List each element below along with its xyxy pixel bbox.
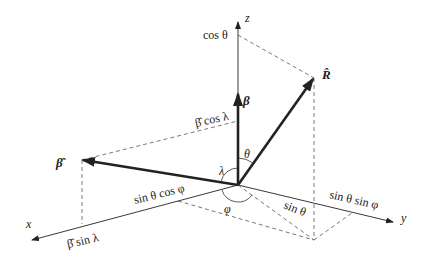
beta-hat-vector [83, 160, 238, 185]
beta-cos-lambda-label: β̂ cos λ [194, 109, 230, 130]
cos-theta-label: cos θ [203, 28, 228, 42]
projection-lines [82, 35, 352, 240]
beta-sin-lambda-label: β̂ sin λ [66, 230, 100, 251]
r-hat-label: R̂ [321, 67, 331, 82]
phi-angle-label: φ [224, 202, 231, 216]
y-axis-label: y [400, 211, 407, 225]
theta-angle-label: θ [244, 147, 250, 161]
sin-theta-cos-phi-label: sin θ cos φ [132, 181, 186, 207]
beta-label: β [242, 93, 250, 108]
x-axis-label: x [25, 217, 32, 231]
lambda-angle-label: λ [218, 164, 224, 178]
vector-diagram: z x y β R̂ β̂ θ λ φ cos θ β̂ cos λ β̂ si… [0, 0, 427, 262]
phi-arc [222, 190, 252, 202]
beta-hat-label: β̂ [55, 155, 66, 170]
z-axis-label: z [244, 11, 250, 25]
